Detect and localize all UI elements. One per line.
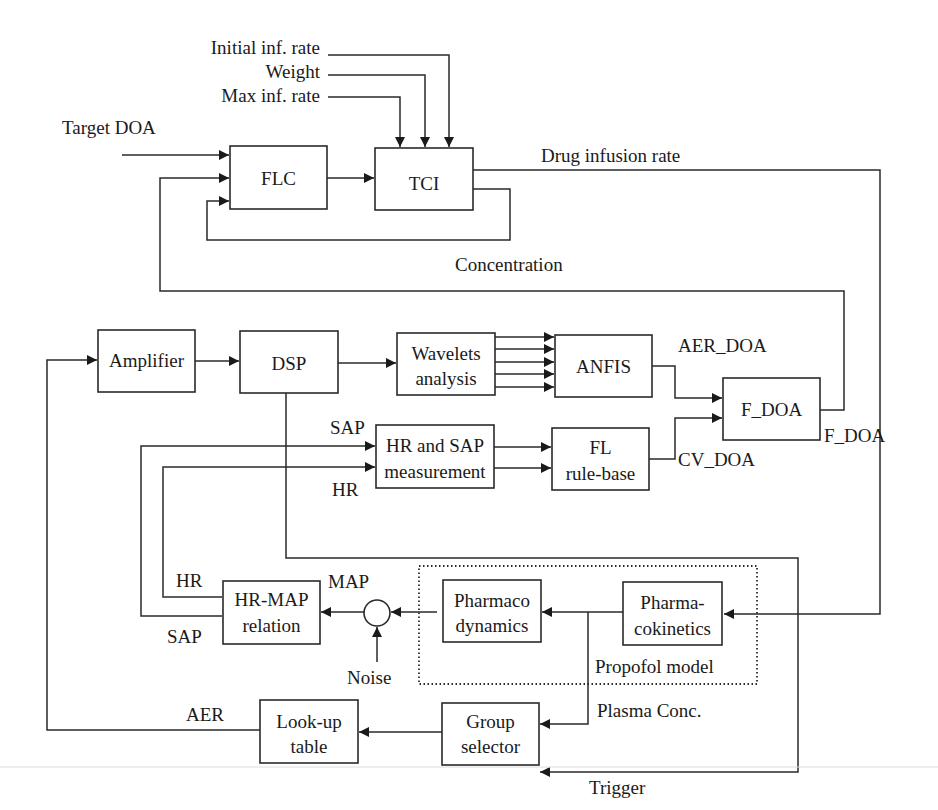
block-flc: FLC xyxy=(230,146,327,209)
block-tci: TCI xyxy=(375,148,473,210)
wire-anfis-to-fdoa xyxy=(652,366,722,398)
block-fl-label-1: FL xyxy=(589,437,611,458)
label-hr-top: HR xyxy=(332,479,359,500)
label-noise: Noise xyxy=(347,667,391,688)
noise-summing-junction xyxy=(364,600,390,626)
block-pd-label-2: dynamics xyxy=(456,615,529,636)
block-pharmacodynamics: Pharmaco dynamics xyxy=(443,580,541,642)
block-pk-label-1: Pharma- xyxy=(640,592,704,613)
block-wavelets-analysis: Wavelets analysis xyxy=(397,333,495,395)
block-group-label-2: selector xyxy=(461,736,521,757)
label-concentration: Concentration xyxy=(455,254,563,275)
label-aer-doa: AER_DOA xyxy=(678,335,767,356)
block-hr-map-label-2: relation xyxy=(242,615,301,636)
label-propofol-model: Propofol model xyxy=(595,656,714,677)
label-max-inf-rate: Max inf. rate xyxy=(221,85,320,106)
label-f-doa-output: F_DOA xyxy=(824,425,886,446)
block-hr-map-relation: HR-MAP relation xyxy=(223,581,320,644)
block-pd-label-1: Pharmaco xyxy=(454,590,530,611)
wire-max-inf-rate xyxy=(328,97,400,147)
label-initial-inf-rate: Initial inf. rate xyxy=(211,37,320,58)
label-hr-left: HR xyxy=(176,570,203,591)
block-hr-sap-measurement: HR and SAP measurement xyxy=(376,425,494,488)
wires-wavelets-to-anfis xyxy=(495,337,554,387)
label-target-doa: Target DOA xyxy=(62,117,156,138)
block-hr-map-label-1: HR-MAP xyxy=(235,589,309,610)
block-f-doa-label: F_DOA xyxy=(741,399,803,420)
block-pharmacokinetics: Pharma- cokinetics xyxy=(623,582,722,645)
label-cv-doa: CV_DOA xyxy=(678,449,755,470)
block-pk-label-2: cokinetics xyxy=(634,618,711,639)
block-lookup-label-1: Look-up xyxy=(276,711,341,732)
block-group-selector: Group selector xyxy=(442,703,539,765)
block-hr-sap-label-2: measurement xyxy=(384,461,486,482)
label-sap-left: SAP xyxy=(167,626,202,647)
label-aer: AER xyxy=(186,704,224,725)
block-anfis-label: ANFIS xyxy=(576,356,631,377)
block-fl-label-2: rule-base xyxy=(566,463,636,484)
block-dsp-label: DSP xyxy=(272,353,307,374)
block-hr-sap-label-1: HR and SAP xyxy=(386,435,484,456)
block-flc-label: FLC xyxy=(261,168,296,189)
block-group-label-1: Group xyxy=(466,711,515,732)
block-tci-label: TCI xyxy=(409,173,440,194)
block-amplifier: Amplifier xyxy=(98,330,195,392)
wire-aer-to-amplifier xyxy=(47,360,260,730)
block-lookup-table: Look-up table xyxy=(260,700,358,763)
block-anfis: ANFIS xyxy=(555,335,652,397)
wire-weight xyxy=(328,75,425,147)
label-plasma-conc: Plasma Conc. xyxy=(597,700,702,721)
wire-initial-inf-rate xyxy=(328,55,449,147)
block-lookup-label-2: table xyxy=(291,736,328,757)
label-weight: Weight xyxy=(266,61,321,82)
block-amplifier-label: Amplifier xyxy=(109,350,185,371)
block-f-doa: F_DOA xyxy=(723,378,820,440)
label-trigger: Trigger xyxy=(589,777,646,798)
block-wavelets-label-1: Wavelets xyxy=(411,343,480,364)
doa-control-block-diagram: Initial inf. rate Weight Max inf. rate T… xyxy=(0,0,938,810)
block-dsp: DSP xyxy=(240,331,338,393)
wire-plasma-conc xyxy=(540,612,588,724)
label-sap-top: SAP xyxy=(330,417,365,438)
label-map: MAP xyxy=(328,571,369,592)
label-drug-infusion-rate: Drug infusion rate xyxy=(541,145,680,166)
block-wavelets-label-2: analysis xyxy=(415,368,476,389)
block-fl-rule-base: FL rule-base xyxy=(552,428,649,490)
